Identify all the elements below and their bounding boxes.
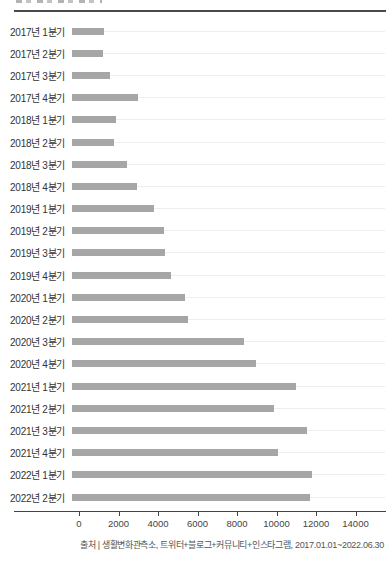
x-axis-tick-label: 6000 xyxy=(176,518,220,529)
row-leader-line xyxy=(72,53,385,54)
x-axis-tick xyxy=(277,511,278,516)
bar-track xyxy=(72,28,385,35)
row-leader-line xyxy=(72,31,385,32)
x-axis-tick xyxy=(198,511,199,516)
x-axis-tick-label: 12000 xyxy=(294,518,338,529)
bar-track xyxy=(72,338,385,345)
bar xyxy=(72,494,310,501)
chart-row: 2022년 1분기 xyxy=(0,464,387,486)
bar-track xyxy=(72,249,385,256)
x-axis-tick xyxy=(79,511,80,516)
bar-track xyxy=(72,449,385,456)
x-axis-tick-label: 4000 xyxy=(136,518,180,529)
bar xyxy=(72,471,312,478)
chart-row: 2021년 2분기 xyxy=(0,397,387,419)
category-label: 2020년 3분기 xyxy=(0,334,72,349)
top-rule xyxy=(14,10,386,12)
chart-row: 2018년 3분기 xyxy=(0,153,387,175)
chart-row: 2021년 1분기 xyxy=(0,375,387,397)
bar xyxy=(72,116,116,123)
x-axis-tick xyxy=(158,511,159,516)
chart-row: 2018년 1분기 xyxy=(0,109,387,131)
category-label: 2021년 2분기 xyxy=(0,401,72,416)
bar-track xyxy=(72,183,385,190)
chart-row: 2018년 4분기 xyxy=(0,175,387,197)
source-note: 출처 | 생활변화관측소, 트위터+블로그+커뮤니티+인스타그램, 2017.0… xyxy=(10,538,384,551)
x-axis-tick xyxy=(119,511,120,516)
category-label: 2019년 3분기 xyxy=(0,245,72,260)
bar xyxy=(72,227,164,234)
bar xyxy=(72,205,154,212)
x-axis-tick-label: 0 xyxy=(57,518,101,529)
category-label: 2018년 3분기 xyxy=(0,157,72,172)
bar-track xyxy=(72,205,385,212)
bar xyxy=(72,405,274,412)
category-label: 2020년 1분기 xyxy=(0,290,72,305)
bar xyxy=(72,294,185,301)
category-label: 2022년 2분기 xyxy=(0,490,72,505)
category-label: 2017년 3분기 xyxy=(0,68,72,83)
category-label: 2018년 4분기 xyxy=(0,179,72,194)
cropped-title-fragment xyxy=(16,0,102,3)
chart-row: 2022년 2분기 xyxy=(0,486,387,508)
category-label: 2018년 2분기 xyxy=(0,135,72,150)
bar xyxy=(72,360,256,367)
row-leader-line xyxy=(72,119,385,120)
bar-track xyxy=(72,294,385,301)
chart-rows: 2017년 1분기 2017년 2분기 2017년 3분기 2017년 4분기 … xyxy=(0,20,387,508)
chart-row: 2017년 2분기 xyxy=(0,42,387,64)
x-axis-tick xyxy=(356,511,357,516)
bar xyxy=(72,161,127,168)
bar xyxy=(72,427,307,434)
category-label: 2022년 1분기 xyxy=(0,467,72,482)
x-axis-tick-label: 8000 xyxy=(215,518,259,529)
x-axis-tick-label: 10000 xyxy=(255,518,299,529)
bar-track xyxy=(72,383,385,390)
category-label: 2017년 4분기 xyxy=(0,90,72,105)
bar-track xyxy=(72,272,385,279)
bar xyxy=(72,272,171,279)
bar-track xyxy=(72,471,385,478)
chart-row: 2021년 4분기 xyxy=(0,442,387,464)
bar xyxy=(72,94,138,101)
category-label: 2019년 1분기 xyxy=(0,201,72,216)
bar xyxy=(72,72,110,79)
bar xyxy=(72,338,244,345)
category-label: 2018년 1분기 xyxy=(0,112,72,127)
chart-row: 2017년 4분기 xyxy=(0,87,387,109)
chart-row: 2019년 4분기 xyxy=(0,264,387,286)
bar xyxy=(72,28,104,35)
bar xyxy=(72,383,296,390)
bar xyxy=(72,449,278,456)
bar-track xyxy=(72,139,385,146)
bar-track xyxy=(72,161,385,168)
chart-row: 2019년 2분기 xyxy=(0,220,387,242)
bar-track xyxy=(72,427,385,434)
bar-track xyxy=(72,360,385,367)
bar-track xyxy=(72,494,385,501)
category-label: 2020년 4분기 xyxy=(0,356,72,371)
bar-track xyxy=(72,316,385,323)
bar-track xyxy=(72,72,385,79)
bar-track xyxy=(72,50,385,57)
bar-chart: 2017년 1분기 2017년 2분기 2017년 3분기 2017년 4분기 … xyxy=(0,0,387,568)
bar-track xyxy=(72,116,385,123)
category-label: 2017년 1분기 xyxy=(0,24,72,39)
bar-track xyxy=(72,227,385,234)
x-axis-tick-label: 2000 xyxy=(97,518,141,529)
chart-row: 2021년 3분기 xyxy=(0,419,387,441)
chart-row: 2019년 3분기 xyxy=(0,242,387,264)
chart-row: 2017년 1분기 xyxy=(0,20,387,42)
chart-row: 2019년 1분기 xyxy=(0,198,387,220)
chart-row: 2020년 4분기 xyxy=(0,353,387,375)
bar xyxy=(72,50,103,57)
category-label: 2019년 4분기 xyxy=(0,268,72,283)
category-label: 2021년 3분기 xyxy=(0,423,72,438)
bar xyxy=(72,139,114,146)
chart-row: 2017년 3분기 xyxy=(0,64,387,86)
category-label: 2021년 1분기 xyxy=(0,379,72,394)
row-leader-line xyxy=(72,142,385,143)
bar xyxy=(72,183,137,190)
x-axis-tick xyxy=(237,511,238,516)
category-label: 2021년 4분기 xyxy=(0,445,72,460)
